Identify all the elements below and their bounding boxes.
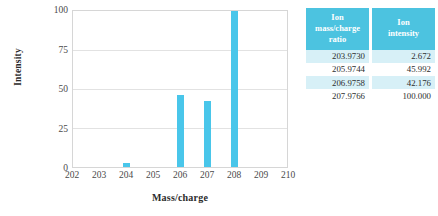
table-row: 207.9766 100.000 [306,89,435,102]
table-header-row: Ion mass/charge ratio Ion intensity [306,8,435,50]
y-tick-label: 75 [8,45,68,55]
ion-data-table: Ion mass/charge ratio Ion intensity 203.… [303,8,423,102]
header-line-2: mass/charge [315,23,360,33]
header-line-1: Ion [331,12,343,22]
cell-intensity: 45.992 [372,63,435,76]
table-header: Ion mass/charge ratio Ion intensity [306,8,435,50]
y-axis-tick-labels: 100 75 50 25 0 [4,10,68,168]
x-axis-title: Mass/charge [72,192,288,203]
y-tick-label: 50 [8,84,68,94]
header-line-2: intensity [388,28,419,38]
plot-area [72,10,288,168]
cell-mass-charge: 205.9744 [306,63,369,76]
ion-table-element: Ion mass/charge ratio Ion intensity 203.… [303,8,438,102]
x-tick-label: 210 [271,170,305,180]
cell-mass-charge: 203.9730 [306,50,369,63]
table-row: 205.9744 45.992 [306,63,435,76]
column-header-ion-intensity: Ion intensity [372,8,435,50]
gridline-50 [73,89,287,90]
gridline-75 [73,50,287,51]
x-axis-tick-labels: 202 203 204 205 206 207 208 209 210 [72,170,288,186]
bar-204 [123,163,130,167]
table-body: 203.9730 2.672 205.9744 45.992 206.9758 … [306,50,435,103]
cell-mass-charge: 207.9766 [306,89,369,102]
bar-206 [177,95,184,167]
mass-spectrum-figure: Intensity 100 75 50 25 0 202 203 204 205… [0,0,300,216]
column-header-mass-charge-ratio: Ion mass/charge ratio [306,8,369,50]
cell-mass-charge: 206.9758 [306,76,369,89]
table-row: 203.9730 2.672 [306,50,435,63]
cell-intensity: 100.000 [372,89,435,102]
table-row: 206.9758 42.176 [306,76,435,89]
header-line-1: Ion [397,17,409,27]
y-tick-label: 100 [8,5,68,15]
cell-intensity: 42.176 [372,76,435,89]
bar-208 [231,11,238,167]
cell-intensity: 2.672 [372,50,435,63]
bar-207 [204,101,211,167]
header-line-3: ratio [329,34,346,44]
y-tick-label: 25 [8,124,68,134]
